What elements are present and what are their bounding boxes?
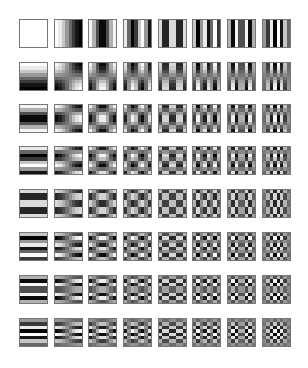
dct-basis-tile-5-7 bbox=[262, 232, 291, 261]
dct-basis-tile-2-3 bbox=[123, 104, 152, 133]
basis-pixel bbox=[183, 343, 186, 346]
basis-pixel bbox=[44, 214, 47, 217]
dct-basis-tile-4-0 bbox=[19, 189, 48, 218]
basis-pixel bbox=[79, 87, 82, 90]
dct-basis-tile-4-7 bbox=[262, 189, 291, 218]
basis-pixel bbox=[217, 44, 220, 47]
dct-basis-tile-1-1 bbox=[54, 62, 83, 91]
basis-pixel bbox=[252, 214, 255, 217]
dct-basis-tile-4-5 bbox=[192, 189, 221, 218]
dct-basis-tile-3-6 bbox=[227, 146, 256, 175]
dct-basis-tile-1-2 bbox=[88, 62, 117, 91]
dct-basis-tile-6-2 bbox=[88, 275, 117, 304]
dct-basis-tile-2-6 bbox=[227, 104, 256, 133]
basis-pixel bbox=[287, 44, 290, 47]
dct-basis-tile-6-6 bbox=[227, 275, 256, 304]
dct-basis-tile-3-3 bbox=[123, 146, 152, 175]
basis-pixel bbox=[252, 343, 255, 346]
basis-pixel bbox=[79, 214, 82, 217]
basis-pixel bbox=[148, 129, 151, 132]
basis-pixel bbox=[252, 171, 255, 174]
basis-pixel bbox=[44, 129, 47, 132]
basis-pixel bbox=[217, 129, 220, 132]
dct-basis-tile-4-1 bbox=[54, 189, 83, 218]
basis-pixel bbox=[79, 44, 82, 47]
dct-basis-tile-6-0 bbox=[19, 275, 48, 304]
basis-pixel bbox=[252, 87, 255, 90]
dct-basis-tile-6-4 bbox=[158, 275, 187, 304]
dct-basis-tile-6-7 bbox=[262, 275, 291, 304]
basis-pixel bbox=[113, 129, 116, 132]
dct-basis-tile-7-2 bbox=[88, 318, 117, 347]
basis-pixel bbox=[113, 87, 116, 90]
basis-pixel bbox=[217, 87, 220, 90]
dct-basis-tile-5-4 bbox=[158, 232, 187, 261]
basis-pixel bbox=[148, 44, 151, 47]
basis-pixel bbox=[148, 214, 151, 217]
basis-pixel bbox=[44, 300, 47, 303]
basis-pixel bbox=[217, 343, 220, 346]
dct-basis-tile-0-2 bbox=[88, 19, 117, 48]
basis-pixel bbox=[44, 87, 47, 90]
dct-basis-tile-2-4 bbox=[158, 104, 187, 133]
dct-basis-tile-7-0 bbox=[19, 318, 48, 347]
basis-pixel bbox=[79, 343, 82, 346]
basis-pixel bbox=[183, 214, 186, 217]
basis-pixel bbox=[252, 300, 255, 303]
dct-basis-tile-3-7 bbox=[262, 146, 291, 175]
dct-basis-tile-5-6 bbox=[227, 232, 256, 261]
dct-basis-tile-0-4 bbox=[158, 19, 187, 48]
dct-basis-grid bbox=[0, 0, 308, 368]
dct-basis-tile-4-4 bbox=[158, 189, 187, 218]
dct-basis-tile-6-5 bbox=[192, 275, 221, 304]
dct-basis-tile-5-2 bbox=[88, 232, 117, 261]
dct-basis-tile-3-1 bbox=[54, 146, 83, 175]
basis-pixel bbox=[252, 257, 255, 260]
dct-basis-tile-5-5 bbox=[192, 232, 221, 261]
basis-pixel bbox=[287, 129, 290, 132]
dct-basis-tile-6-1 bbox=[54, 275, 83, 304]
basis-pixel bbox=[113, 257, 116, 260]
basis-pixel bbox=[183, 129, 186, 132]
basis-pixel bbox=[113, 343, 116, 346]
dct-basis-tile-3-0 bbox=[19, 146, 48, 175]
basis-pixel bbox=[183, 44, 186, 47]
dct-basis-tile-7-4 bbox=[158, 318, 187, 347]
basis-pixel bbox=[148, 300, 151, 303]
dct-basis-tile-0-5 bbox=[192, 19, 221, 48]
basis-pixel bbox=[287, 214, 290, 217]
dct-basis-tile-4-6 bbox=[227, 189, 256, 218]
basis-pixel bbox=[217, 171, 220, 174]
basis-pixel bbox=[183, 87, 186, 90]
basis-pixel bbox=[287, 343, 290, 346]
dct-basis-tile-2-2 bbox=[88, 104, 117, 133]
dct-basis-tile-3-5 bbox=[192, 146, 221, 175]
basis-pixel bbox=[113, 300, 116, 303]
basis-pixel bbox=[287, 300, 290, 303]
basis-pixel bbox=[148, 87, 151, 90]
dct-basis-tile-7-1 bbox=[54, 318, 83, 347]
dct-basis-tile-6-3 bbox=[123, 275, 152, 304]
dct-basis-tile-3-4 bbox=[158, 146, 187, 175]
dct-basis-tile-0-6 bbox=[227, 19, 256, 48]
dct-basis-tile-1-6 bbox=[227, 62, 256, 91]
basis-pixel bbox=[79, 300, 82, 303]
dct-basis-tile-2-7 bbox=[262, 104, 291, 133]
dct-basis-tile-7-6 bbox=[227, 318, 256, 347]
basis-pixel bbox=[148, 343, 151, 346]
basis-pixel bbox=[183, 257, 186, 260]
basis-pixel bbox=[148, 171, 151, 174]
dct-basis-tile-0-0 bbox=[19, 19, 48, 48]
dct-basis-tile-0-7 bbox=[262, 19, 291, 48]
basis-pixel bbox=[217, 214, 220, 217]
basis-pixel bbox=[217, 257, 220, 260]
dct-basis-tile-1-5 bbox=[192, 62, 221, 91]
basis-pixel bbox=[217, 300, 220, 303]
basis-pixel bbox=[113, 214, 116, 217]
basis-pixel bbox=[113, 44, 116, 47]
dct-basis-tile-7-5 bbox=[192, 318, 221, 347]
basis-pixel bbox=[252, 44, 255, 47]
dct-basis-tile-0-3 bbox=[123, 19, 152, 48]
basis-pixel bbox=[79, 257, 82, 260]
basis-pixel bbox=[183, 300, 186, 303]
